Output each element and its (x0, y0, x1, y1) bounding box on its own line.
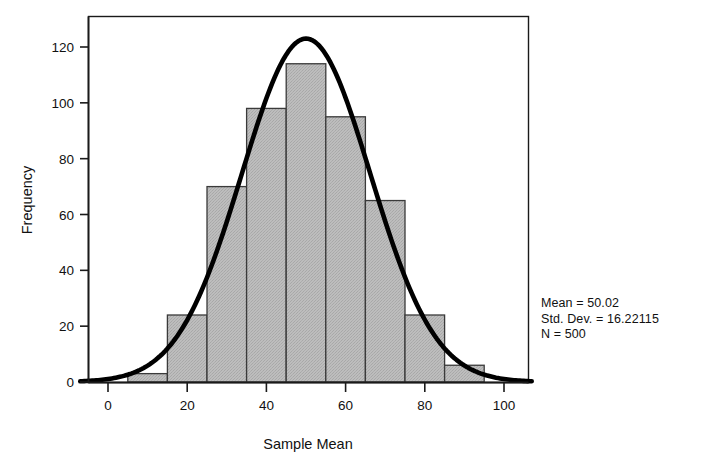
statistics-annotation: Mean = 50.02 Std. Dev. = 16.22115 N = 50… (541, 296, 659, 343)
histogram-bar (286, 64, 326, 382)
x-tick-label: 60 (338, 398, 353, 413)
stat-n: N = 500 (541, 327, 659, 343)
y-tick-label: 100 (51, 96, 74, 111)
x-tick-label: 100 (493, 398, 516, 413)
y-tick-label: 0 (66, 375, 74, 390)
histogram-bar (167, 315, 207, 382)
histogram-bar (405, 315, 445, 382)
x-tick-label: 0 (104, 398, 112, 413)
histogram-plot: 020406080100120 020406080100 Frequency S… (0, 0, 702, 466)
y-tick-label: 60 (59, 208, 74, 223)
stat-std-dev: Std. Dev. = 16.22115 (541, 312, 659, 328)
x-axis-ticks: 020406080100 (104, 383, 515, 414)
y-tick-label: 20 (59, 319, 74, 334)
y-tick-label: 40 (59, 263, 74, 278)
x-tick-label: 20 (180, 398, 195, 413)
histogram-bar (326, 117, 366, 382)
y-tick-label: 120 (51, 40, 74, 55)
x-tick-label: 40 (259, 398, 274, 413)
stat-mean: Mean = 50.02 (541, 296, 659, 312)
y-axis-title: Frequency (19, 165, 35, 234)
y-axis-ticks: 020406080100120 (51, 40, 88, 390)
histogram-figure: 020406080100120 020406080100 Frequency S… (0, 0, 702, 466)
y-tick-label: 80 (59, 152, 74, 167)
x-axis-title: Sample Mean (263, 436, 352, 452)
x-tick-label: 80 (417, 398, 432, 413)
histogram-bar (247, 108, 287, 382)
